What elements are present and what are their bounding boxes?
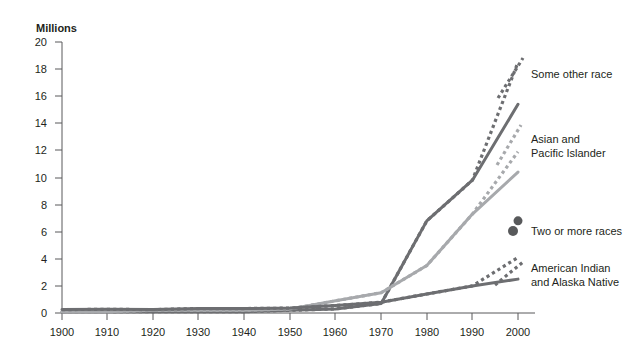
legend-label-some-other-race: Some other race — [531, 68, 612, 80]
legend-label-american-indian-line2: and Alaska Native — [531, 276, 619, 288]
legend-label-asian-pacific-line2: Pacific Islander — [531, 147, 606, 159]
y-tick-label-0: 0 — [41, 307, 47, 319]
x-tick-label-1960: 1960 — [323, 326, 347, 338]
x-tick-label-1940: 1940 — [232, 326, 256, 338]
y-tick-label-2: 2 — [41, 280, 47, 292]
legend-label-asian-pacific-line1: Asian and — [531, 133, 580, 145]
x-tick-label-1920: 1920 — [141, 326, 165, 338]
x-tick-label-1930: 1930 — [186, 326, 210, 338]
x-tick-label-1900: 1900 — [50, 326, 74, 338]
data-point-two-or-more-races — [514, 216, 523, 225]
x-tick-label-2000: 2000 — [506, 326, 530, 338]
legend-label-two-or-more-races: Two or more races — [531, 225, 623, 237]
y-tick-label-8: 8 — [41, 199, 47, 211]
x-tick-label-1970: 1970 — [369, 326, 393, 338]
x-tick-label-1990: 1990 — [460, 326, 484, 338]
chart-svg: Millions 20 18 16 14 12 10 8 6 — [0, 0, 640, 359]
x-tick-label-1950: 1950 — [278, 326, 302, 338]
y-tick-label-14: 14 — [35, 117, 47, 129]
legend-label-american-indian-line1: American Indian — [531, 262, 611, 274]
x-tick-label-1910: 1910 — [95, 326, 119, 338]
y-tick-label-18: 18 — [35, 63, 47, 75]
y-tick-label-10: 10 — [35, 172, 47, 184]
y-tick-label-16: 16 — [35, 90, 47, 102]
y-tick-label-20: 20 — [35, 36, 47, 48]
population-by-race-line-chart: Millions 20 18 16 14 12 10 8 6 — [0, 0, 640, 359]
x-tick-label-1980: 1980 — [415, 326, 439, 338]
legend-dot-marker-two-or-more-races — [508, 226, 518, 236]
y-axis-unit-label: Millions — [36, 22, 77, 34]
y-tick-label-12: 12 — [35, 144, 47, 156]
y-tick-label-6: 6 — [41, 226, 47, 238]
y-tick-label-4: 4 — [41, 253, 47, 265]
